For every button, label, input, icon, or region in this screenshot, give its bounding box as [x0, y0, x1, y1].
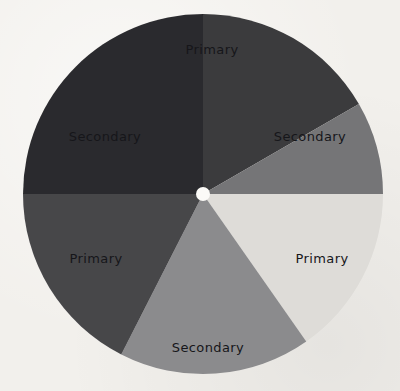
wheel-segment-left-upper[interactable]	[23, 14, 203, 194]
segment-label-right-lower: Primary	[295, 251, 348, 266]
segment-label-top: Primary	[185, 42, 238, 57]
color-wheel-svg: PrimarySecondaryPrimarySecondaryPrimaryS…	[0, 0, 400, 391]
segment-label-left-upper: Secondary	[69, 129, 141, 144]
color-wheel-page: PrimarySecondaryPrimarySecondaryPrimaryS…	[0, 0, 400, 391]
segment-label-bottom: Secondary	[172, 340, 244, 355]
color-wheel-figure: PrimarySecondaryPrimarySecondaryPrimaryS…	[0, 0, 400, 391]
segment-label-left-lower: Primary	[69, 251, 122, 266]
segment-label-right-upper: Secondary	[274, 129, 346, 144]
wheel-center-hub	[196, 187, 210, 201]
